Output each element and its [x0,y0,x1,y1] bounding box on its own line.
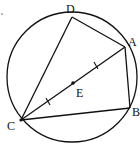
label-d: D [66,2,75,16]
circumcircle [7,12,137,142]
label-b: B [132,105,140,119]
label-a: A [128,35,137,49]
segment-ad [72,17,125,47]
segment-ab [125,47,130,108]
geometry-diagram: D A B C E [0,0,140,145]
segment-dc [21,17,72,120]
point-c-dot [19,118,22,121]
point-e-dot [71,81,75,85]
stray-dot [1,13,3,15]
label-c: C [7,119,15,133]
label-e: E [76,86,83,100]
segment-bc [21,108,130,120]
